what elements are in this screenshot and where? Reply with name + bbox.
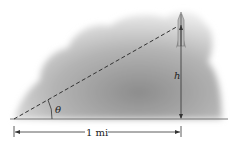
- distance-arrowhead-right-icon: [175, 130, 180, 134]
- distance-arrowhead-left-icon: [15, 130, 20, 134]
- angle-label: θ: [55, 104, 61, 115]
- height-label: h: [174, 70, 180, 81]
- rocket-diagram: θ h 1 mi: [0, 0, 238, 147]
- distance-label: 1 mi: [86, 127, 108, 138]
- smoke-cloud: [14, 12, 222, 119]
- diagram-canvas: θ h 1 mi: [0, 0, 238, 147]
